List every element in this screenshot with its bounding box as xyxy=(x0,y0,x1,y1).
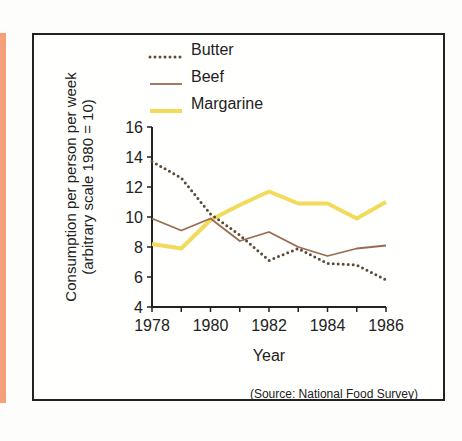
x-tick-label: 1986 xyxy=(368,317,404,334)
x-tick-label: 1984 xyxy=(310,317,346,334)
y-tick-label: 14 xyxy=(125,149,143,166)
y-tick-label: 16 xyxy=(125,119,143,136)
y-axis-label: Consumption per person per week xyxy=(62,72,79,302)
series-margarine xyxy=(152,192,386,249)
x-tick-label: 1982 xyxy=(251,317,287,334)
legend: ButterBeefMargarine xyxy=(150,41,263,112)
x-tick-label: 1980 xyxy=(193,317,229,334)
y-tick-label: 6 xyxy=(134,269,143,286)
y-tick-label: 4 xyxy=(134,299,143,316)
legend-label: Butter xyxy=(191,41,234,58)
y-tick-label: 8 xyxy=(134,239,143,256)
x-tick-label: 1978 xyxy=(134,317,170,334)
axes: 4681012141619781980198219841986 xyxy=(125,119,404,334)
series-butter xyxy=(152,162,386,281)
series-lines xyxy=(152,162,386,281)
legend-label: Margarine xyxy=(191,95,263,112)
y-axis-sublabel: (arbitrary scale 1980 = 10) xyxy=(79,99,96,275)
series-beef xyxy=(152,219,386,257)
y-tick-label: 10 xyxy=(125,209,143,226)
source-note: (Source: National Food Survey) xyxy=(250,387,418,401)
line-chart: ButterBeefMargarine 46810121416197819801… xyxy=(0,0,462,441)
x-axis-label: Year xyxy=(253,347,286,364)
y-tick-label: 12 xyxy=(125,179,143,196)
legend-label: Beef xyxy=(191,68,224,85)
